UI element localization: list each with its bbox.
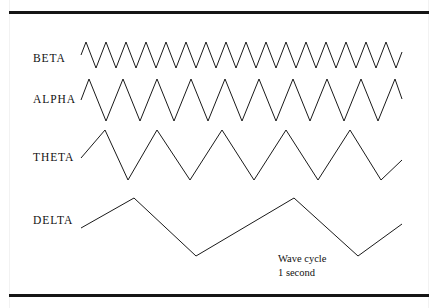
band-label-beta: BETA bbox=[33, 53, 66, 65]
brainwave-figure: BETA ALPHA THETA DELTA Wave cycle 1 seco… bbox=[0, 0, 438, 308]
caption-line-1: Wave cycle bbox=[278, 252, 326, 266]
waveform-alpha bbox=[81, 79, 402, 121]
wave-cycle-caption: Wave cycle 1 second bbox=[278, 252, 326, 280]
waveform-delta bbox=[81, 198, 402, 256]
band-label-delta: DELTA bbox=[33, 215, 73, 227]
waveform-theta bbox=[81, 130, 402, 180]
waveform-beta bbox=[81, 42, 402, 68]
band-label-alpha: ALPHA bbox=[33, 94, 76, 106]
waveform-series-group bbox=[81, 42, 402, 256]
band-label-theta: THETA bbox=[33, 152, 74, 164]
caption-line-2: 1 second bbox=[278, 266, 326, 280]
